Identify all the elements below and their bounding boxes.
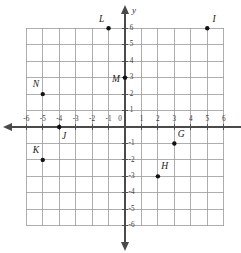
coordinate-plane-figure: -6-5-4-3-2-1123456654321-1-2-3-4-5-60 y … [0, 0, 241, 253]
x-tick-label: -2 [89, 115, 95, 123]
point-label-g: G [178, 129, 185, 139]
point-marker-g [172, 141, 176, 145]
point-marker-k [41, 158, 45, 162]
point-label-l: L [98, 14, 104, 24]
axis-names: y [131, 5, 136, 15]
point-marker-j [57, 125, 61, 129]
y-tick-label: -4 [129, 188, 135, 196]
x-tick-label: 2 [156, 115, 160, 123]
y-tick-label: 2 [130, 90, 134, 98]
x-tick-label: 4 [189, 115, 193, 123]
y-tick-label: 4 [130, 57, 134, 65]
x-tick-label: -4 [56, 115, 62, 123]
point-marker-m [123, 75, 127, 79]
x-tick-label: -6 [23, 115, 29, 123]
y-tick-label: 3 [130, 73, 134, 81]
point-label-k: K [32, 145, 40, 155]
y-axis-name: y [131, 5, 136, 15]
point-label-i: I [212, 14, 217, 24]
x-tick-label: 1 [140, 115, 144, 123]
point-label-j: J [62, 131, 67, 141]
y-tick-label: -5 [129, 205, 135, 213]
x-tick-label: 3 [173, 115, 177, 123]
point-label-n: N [32, 79, 40, 89]
point-marker-h [156, 174, 160, 178]
x-tick-label: -5 [40, 115, 46, 123]
axes [3, 5, 241, 251]
y-tick-label: 5 [130, 40, 134, 48]
y-axis-arrow-up [121, 5, 129, 14]
point-marker-n [41, 92, 45, 96]
point-marker-i [205, 26, 209, 30]
point-marker-l [106, 26, 110, 30]
x-tick-label: 5 [205, 115, 209, 123]
coordinate-plane-svg: -6-5-4-3-2-1123456654321-1-2-3-4-5-60 y … [0, 0, 241, 253]
y-tick-label: -2 [129, 156, 135, 164]
y-tick-label: -3 [129, 172, 135, 180]
y-tick-label: 6 [130, 24, 134, 32]
point-label-m: M [111, 74, 121, 84]
x-axis-arrow-left [3, 123, 12, 131]
y-tick-label: 1 [130, 106, 134, 114]
origin-label: 0 [118, 115, 122, 123]
x-tick-label: 6 [222, 115, 226, 123]
y-tick-label: -1 [129, 139, 135, 147]
y-axis-arrow-down [121, 242, 129, 251]
y-tick-label: -6 [129, 221, 135, 229]
x-tick-label: -3 [73, 115, 79, 123]
point-label-h: H [160, 161, 169, 171]
x-tick-label: -1 [106, 115, 112, 123]
